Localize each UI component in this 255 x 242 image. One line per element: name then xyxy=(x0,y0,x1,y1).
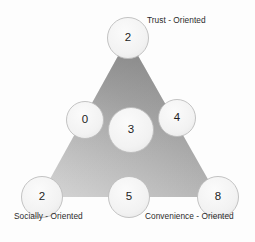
vertex-caption-convenience: Convenience - Oriented xyxy=(145,211,234,221)
node-circle-mid-right[interactable] xyxy=(159,100,196,137)
diagram-canvas xyxy=(0,0,255,242)
vertex-caption-trust: Trust - Oriented xyxy=(147,15,206,25)
node-circle-apex-trust[interactable] xyxy=(108,18,149,59)
node-circle-center[interactable] xyxy=(109,108,154,153)
node-circles xyxy=(22,18,239,218)
triangle-diagram: 2 0 3 4 2 5 8 Trust - Oriented Socially … xyxy=(0,0,255,242)
node-circle-mid-left[interactable] xyxy=(67,102,104,139)
vertex-caption-socially: Socially - Oriented xyxy=(14,211,83,221)
node-circle-base-center[interactable] xyxy=(109,177,150,218)
